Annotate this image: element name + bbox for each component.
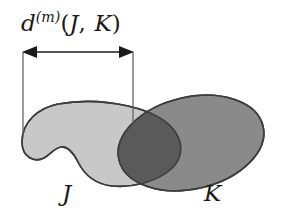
distance-close-paren: ) [112,10,121,36]
distance-open-paren: ( [60,10,69,36]
distance-arg-second: K [95,10,112,36]
distance-superscript: (m) [36,9,61,25]
arrowhead-left [22,46,37,58]
double-headed-arrow [22,46,134,58]
distance-comma: , [79,10,88,36]
distance-base-symbol: d [21,10,36,36]
set-j-label: J [62,182,71,205]
distance-measure-label: d(m)(J, K) [21,10,121,35]
distance-arg-first: J [69,10,78,36]
set-distance-diagram: d(m)(J, K) J K [0,0,285,222]
arrowhead-right [119,46,134,58]
set-k-label: K [204,182,221,205]
